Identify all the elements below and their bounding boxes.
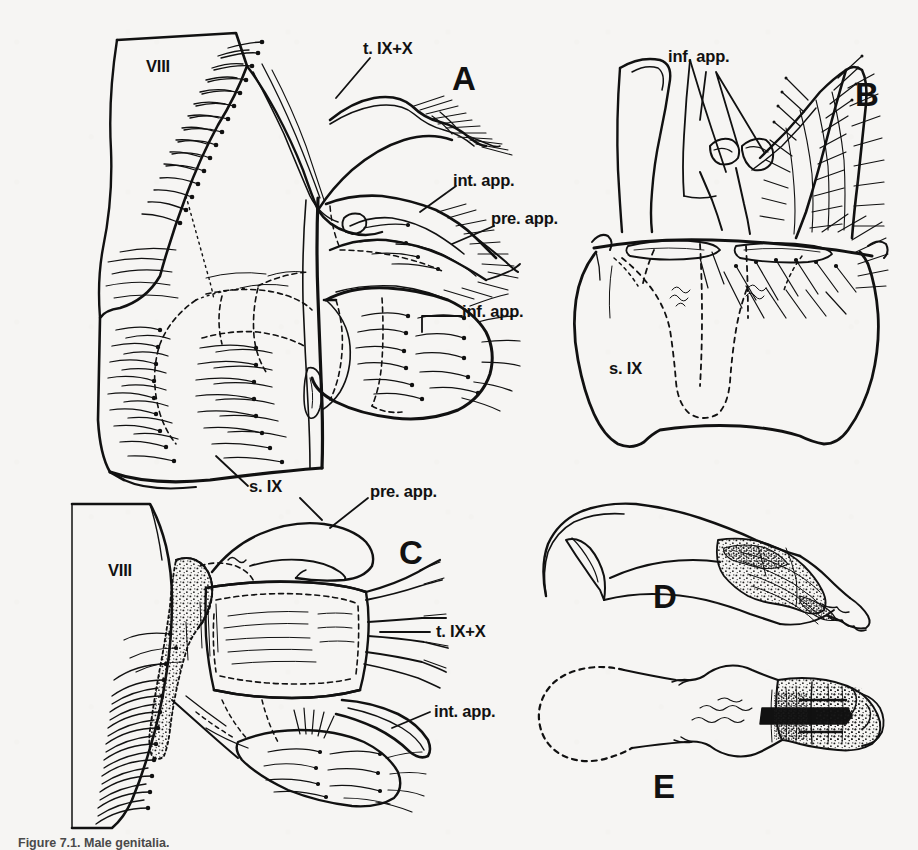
panel-letter-e: E [653,770,675,803]
label-pre-app-c: pre. app. [370,483,437,500]
label-viii-c: VIII [108,562,132,579]
panel-letter-a: A [452,62,476,95]
label-inf-app-a: inf. app. [462,303,523,320]
label-inf-app-b: inf. app. [668,48,729,65]
panel-c-artwork [72,498,448,828]
label-viii-a: VIII [146,58,170,75]
label-int-app-c: int. app. [434,703,495,720]
panel-letter-b: B [855,78,879,111]
panel-letter-c: C [399,536,423,569]
label-t-ix-x-c: t. IX+X [436,623,486,640]
figure-caption: Figure 7.1. Male genitalia. [18,836,169,850]
label-s-ix-b: s. IX [609,360,642,377]
label-s-ix-a: s. IX [249,478,282,495]
figure-artwork [0,0,918,850]
panel-e-artwork [539,666,884,762]
label-t-ix-x-a: t. IX+X [363,40,413,57]
label-pre-app-a: pre. app. [491,210,558,227]
panel-a-artwork [98,33,520,520]
figure-plate: VIII t. IX+X A int. app. pre. app. inf. … [0,0,918,850]
panel-d-artwork [543,504,869,631]
panel-b-artwork [574,55,888,447]
panel-letter-d: D [653,580,677,613]
label-int-app-a: int. app. [453,172,514,189]
